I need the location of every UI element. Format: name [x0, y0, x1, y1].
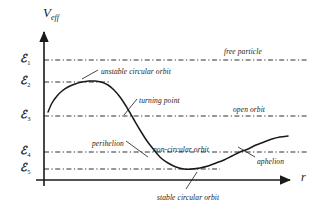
y-axis-label-main: V [43, 5, 51, 20]
annotation-unstable-circular-orbit: unstable circular orbit [101, 68, 171, 76]
script-e-glyph: ℰ [20, 108, 27, 121]
energy-tick-label-1: ℰ1 [20, 53, 30, 64]
leader-unstable-circular-orbit [82, 70, 98, 79]
y-axis-label: Veff [43, 6, 59, 19]
plot-canvas [0, 0, 321, 212]
energy-tick-label-3: ℰ3 [20, 109, 30, 120]
leader-perihelion [126, 141, 148, 157]
energy-subscript: 1 [27, 59, 30, 66]
annotation-open-orbit: open orbit [233, 106, 265, 114]
annotation-free-particle: free particle [224, 48, 262, 56]
annotation-turning-point: turning point [139, 97, 180, 105]
y-axis-label-subscript: eff [51, 13, 59, 22]
annotation-non-circular-orbit: non-circular orbit [153, 146, 209, 154]
x-axis-label-text: r [301, 170, 306, 184]
energy-tick-label-5: ℰ5 [20, 162, 30, 173]
script-e-glyph: ℰ [20, 161, 27, 174]
annotation-stable-circular-orbit: stable circular orbit [157, 194, 219, 202]
effective-potential-curve [48, 81, 288, 169]
script-e-glyph: ℰ [20, 52, 27, 65]
energy-subscript: 2 [27, 81, 30, 88]
annotation-perihelion: perihelion [92, 140, 124, 148]
script-e-glyph: ℰ [20, 74, 27, 87]
energy-subscript: 3 [27, 115, 30, 122]
x-axis-label: r [301, 171, 306, 183]
energy-subscript: 4 [27, 151, 30, 158]
annotation-aphelion: aphelion [257, 158, 284, 166]
energy-tick-label-2: ℰ2 [20, 75, 30, 86]
energy-tick-label-4: ℰ4 [20, 145, 30, 156]
script-e-glyph: ℰ [20, 144, 27, 157]
effective-potential-figure: ℰ1ℰ2ℰ3ℰ4ℰ5 free particleunstable circula… [0, 0, 321, 212]
energy-subscript: 5 [27, 168, 30, 175]
leader-lines [82, 70, 255, 189]
